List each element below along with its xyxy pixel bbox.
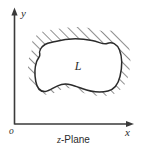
- z-plane-figure: L y x o z-Plane: [0, 0, 147, 157]
- figure-caption: z-Plane: [0, 134, 147, 145]
- y-axis-label: y: [20, 7, 26, 19]
- caption-rest: -Plane: [61, 134, 90, 145]
- region-label-l: L: [74, 59, 82, 73]
